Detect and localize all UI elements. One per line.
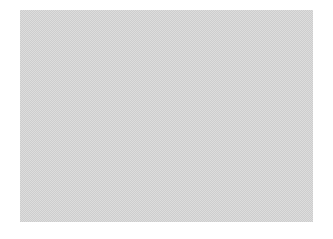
image-placeholder-description: Blank dithered gray placeholder area [20,10,21,11]
image-placeholder: Blank dithered gray placeholder area [20,10,313,222]
